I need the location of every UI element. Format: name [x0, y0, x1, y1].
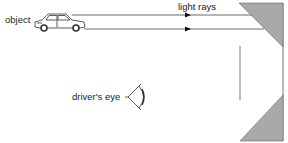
- object-label: object: [5, 15, 30, 25]
- periscope-diagram: object light rays driver's eye: [0, 0, 288, 143]
- light-rays-label: light rays: [178, 2, 216, 12]
- drivers-eye-label: driver's eye: [72, 92, 120, 102]
- bottom-mirror: [240, 95, 283, 141]
- arrowhead-icon: [185, 13, 191, 18]
- car-icon: [35, 14, 85, 31]
- eye-icon: [125, 84, 144, 110]
- top-mirror: [239, 3, 283, 47]
- light-rays: [72, 15, 264, 29]
- diagram-canvas: [0, 0, 288, 143]
- arrowhead-icon: [185, 27, 191, 32]
